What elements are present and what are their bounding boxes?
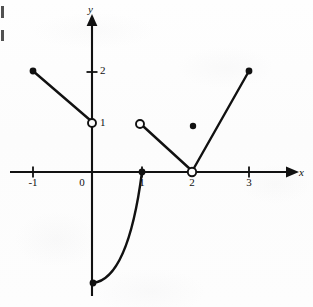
- segment-left-line: [33, 71, 90, 120]
- open-point-0-1: [88, 119, 96, 127]
- x-axis-label: x: [299, 166, 304, 178]
- closed-point-1-0: [139, 169, 146, 176]
- figure-canvas: y x -1 0 1 2 3 1 2: [0, 0, 313, 307]
- x-tick-label-2: 2: [184, 176, 200, 188]
- segment-right: [188, 68, 253, 177]
- closed-point-0-neg2: [90, 280, 97, 287]
- x-tick-label--1: -1: [23, 176, 43, 188]
- x-axis-arrowhead: [286, 167, 299, 178]
- segment-right-line: [194, 71, 249, 168]
- curve-lower-path: [93, 172, 142, 283]
- y-tick-label-2: 2: [100, 64, 114, 76]
- y-axis-label: y: [88, 3, 93, 15]
- graph-plot: [0, 0, 313, 307]
- axis-lines: [10, 14, 299, 296]
- isolated-closed-point-2-1: [190, 123, 196, 129]
- segment-middle: [136, 120, 190, 169]
- closed-point-neg1-2: [30, 68, 37, 75]
- x-tick-label-0: 0: [72, 176, 92, 188]
- open-point-2-0: [188, 168, 196, 176]
- x-tick-label-3: 3: [241, 176, 257, 188]
- closed-point-3-2: [246, 68, 253, 75]
- segment-middle-line: [144, 127, 190, 169]
- x-tick-label-1: 1: [134, 176, 150, 188]
- segment-left: [30, 68, 96, 127]
- y-tick-label-1: 1: [100, 116, 114, 128]
- y-axis-arrowhead: [87, 14, 98, 26]
- open-point-1-1: [136, 120, 144, 128]
